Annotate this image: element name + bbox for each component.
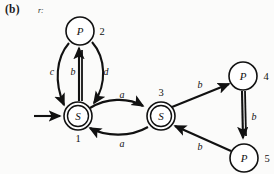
edge-d: d	[92, 42, 110, 103]
node-s1-label: S	[75, 110, 81, 122]
node-s3[interactable]: S 3	[147, 87, 175, 130]
edge-b-to-s3: b	[175, 126, 231, 152]
node-p5-label: P	[240, 152, 248, 164]
state-machine-diagram: c b d a a b	[0, 0, 274, 174]
node-p2-label: P	[76, 25, 84, 37]
node-p4-index: 4	[263, 71, 269, 82]
edge-label-b-to-p4: b	[198, 79, 203, 90]
edge-b-to-p4: b	[172, 79, 229, 107]
edge-label-d: d	[104, 66, 110, 77]
edge-label-b-up: b	[71, 66, 76, 77]
node-s1[interactable]: S 1	[64, 102, 92, 144]
edge-label-a-back: a	[120, 138, 125, 149]
edge-b-p4-to-p5: b	[242, 91, 257, 138]
edge-label-a-forward: a	[120, 89, 125, 100]
node-p4[interactable]: P 4	[229, 62, 269, 90]
node-s3-index: 3	[158, 87, 163, 98]
node-p2[interactable]: P 2	[66, 17, 105, 45]
edge-a-back: a	[90, 127, 148, 149]
figure-canvas: (b) r: c b d	[0, 0, 274, 174]
node-p4-label: P	[239, 70, 247, 82]
edge-label-b-to-s3: b	[198, 141, 203, 152]
edge-b-up: b	[71, 48, 83, 101]
node-s1-index: 1	[75, 133, 80, 144]
node-p5[interactable]: P 5	[230, 144, 270, 172]
node-p2-index: 2	[99, 26, 104, 37]
edge-c: c	[50, 43, 69, 105]
edge-label-b-p4-to-p5: b	[252, 111, 257, 122]
node-s3-label: S	[158, 110, 164, 122]
edge-label-c: c	[50, 66, 55, 77]
node-p5-index: 5	[264, 153, 269, 164]
